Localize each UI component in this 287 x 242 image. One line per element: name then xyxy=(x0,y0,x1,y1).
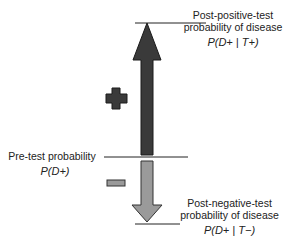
post-positive-line2: probability of disease xyxy=(178,21,287,33)
post-negative-line1: Post-negative-test xyxy=(172,197,287,209)
up-arrow-icon xyxy=(133,23,161,155)
pre-test-line1: Pre-test probability xyxy=(2,150,102,162)
post-positive-label: Post-positive-test probability of diseas… xyxy=(178,9,287,48)
pre-test-formula: P(D+) xyxy=(2,165,102,177)
pre-test-label: Pre-test probability P(D+) xyxy=(2,150,102,177)
post-positive-formula: P(D+ | T+) xyxy=(178,36,287,48)
plus-sign-icon xyxy=(106,88,127,109)
post-negative-formula: P(D+ | T−) xyxy=(172,224,287,236)
down-arrow-icon xyxy=(132,161,162,222)
post-positive-line1: Post-positive-test xyxy=(178,9,287,21)
minus-sign-icon xyxy=(107,180,125,186)
post-negative-label: Post-negative-test probability of diseas… xyxy=(172,197,287,236)
post-negative-line2: probability of disease xyxy=(172,209,287,221)
